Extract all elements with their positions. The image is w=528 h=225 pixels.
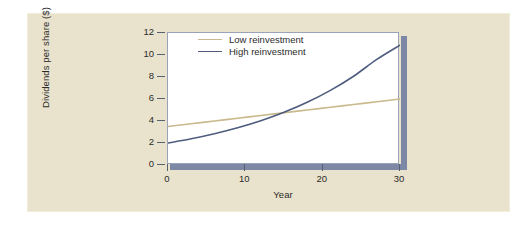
y-tick-label: 2 <box>128 137 154 147</box>
legend-swatch-icon <box>198 39 222 40</box>
y-tick-label: 8 <box>128 71 154 81</box>
y-tick-label: 0 <box>128 159 154 169</box>
y-tick <box>157 32 165 33</box>
y-tick-label: 6 <box>128 93 154 103</box>
legend-swatch-icon <box>198 51 222 52</box>
chart-legend: Low reinvestmentHigh reinvestment <box>198 34 306 58</box>
x-axis-title: Year <box>167 189 399 200</box>
y-tick <box>157 76 165 77</box>
line-chart: Dividends per share ($) 024681012 010203… <box>28 14 511 213</box>
legend-label: High reinvestment <box>229 47 306 57</box>
y-tick-label: 10 <box>128 49 154 59</box>
y-tick <box>157 142 165 143</box>
x-tick <box>399 164 400 171</box>
x-tick-label: 0 <box>152 174 182 184</box>
legend-item: High reinvestment <box>198 46 306 57</box>
x-tick <box>167 164 168 171</box>
y-tick <box>157 54 165 55</box>
legend-label: Low reinvestment <box>229 35 303 45</box>
y-tick <box>157 120 165 121</box>
y-tick <box>157 164 165 165</box>
figure-card: Dividends per share ($) 024681012 010203… <box>27 13 510 212</box>
x-tick-label: 30 <box>384 174 414 184</box>
x-tick-label: 20 <box>307 174 337 184</box>
x-tick <box>244 164 245 171</box>
y-tick-label: 12 <box>128 27 154 37</box>
legend-item: Low reinvestment <box>198 34 306 45</box>
y-axis-title: Dividends per share ($) <box>40 0 51 138</box>
y-tick-label: 4 <box>128 115 154 125</box>
y-tick <box>157 98 165 99</box>
x-tick-label: 10 <box>229 174 259 184</box>
plot-shadow-right <box>401 36 407 170</box>
series-line-high-reinvestment <box>168 45 400 143</box>
x-tick <box>322 164 323 171</box>
